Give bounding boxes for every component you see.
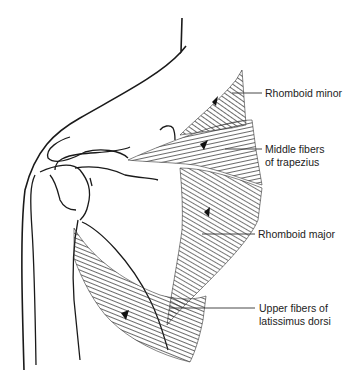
label-middle-trapezius: Middle fibers of trapezius [265,143,325,168]
label-latissimus-dorsi: Upper fibers of latissimus dorsi [259,302,331,327]
label-rhomboid-major: Rhomboid major [258,228,335,241]
label-rhomboid-minor: Rhomboid minor [265,87,342,100]
